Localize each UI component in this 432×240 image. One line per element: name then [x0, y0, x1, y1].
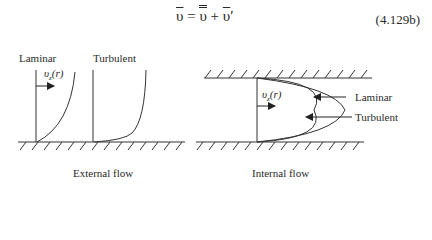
external-turbulent-label: Turbulent: [93, 52, 136, 64]
external-ground-wall: [18, 142, 185, 150]
internal-laminar-label: Laminar: [355, 91, 392, 103]
external-velocity-label: υz(r): [44, 67, 63, 82]
external-flow-caption: External flow: [73, 167, 133, 179]
external-laminar-label: Laminar: [19, 52, 56, 64]
internal-flow-caption: Internal flow: [252, 167, 309, 179]
internal-turbulent-label: Turbulent: [355, 111, 398, 123]
turbulent-profile-curve: [94, 70, 146, 142]
laminar-profile-curve: [37, 72, 75, 142]
internal-top-wall: [204, 70, 372, 78]
internal-bottom-wall: [196, 142, 364, 150]
internal-velocity-label: υz(r): [262, 88, 281, 103]
